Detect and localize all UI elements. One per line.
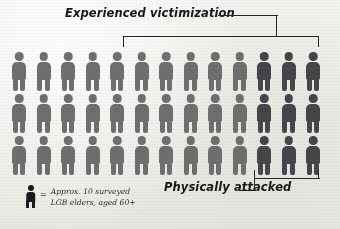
person-icon xyxy=(134,94,150,134)
person-icon xyxy=(85,136,101,176)
person-icon xyxy=(85,94,101,134)
person-icon xyxy=(183,52,199,92)
person-icon xyxy=(60,136,76,176)
person-icon xyxy=(207,52,223,92)
person-icon xyxy=(11,94,27,134)
person-icon xyxy=(158,94,174,134)
person-icon xyxy=(60,94,76,134)
person-icon-attacked xyxy=(305,52,321,92)
person-icon xyxy=(36,94,52,134)
person-icon-attacked xyxy=(305,94,321,134)
person-icon xyxy=(207,94,223,134)
top-bracket-span xyxy=(123,36,319,37)
person-icon xyxy=(109,52,125,92)
person-icon-attacked xyxy=(281,94,297,134)
legend-line-1: Approx. 10 surveyed xyxy=(51,187,136,198)
person-icon xyxy=(11,52,27,92)
person-icon xyxy=(134,136,150,176)
experienced-victimization-label: Experienced victimization xyxy=(65,6,235,20)
person-icon xyxy=(232,94,248,134)
person-icon xyxy=(158,52,174,92)
legend: = Approx. 10 surveyed LGB elders, aged 6… xyxy=(25,184,136,208)
person-icon xyxy=(36,52,52,92)
person-icon-attacked xyxy=(256,94,272,134)
top-bracket-leader xyxy=(218,15,278,16)
person-icon xyxy=(207,136,223,176)
person-icon xyxy=(134,52,150,92)
person-icon xyxy=(232,52,248,92)
person-icon xyxy=(36,136,52,176)
person-icon-attacked xyxy=(281,136,297,176)
legend-description: Approx. 10 surveyed LGB elders, aged 60+ xyxy=(51,187,136,208)
person-icon xyxy=(60,52,76,92)
pictogram-grid xyxy=(11,52,333,178)
pictogram-row xyxy=(11,136,333,178)
person-icon xyxy=(85,52,101,92)
physically-attacked-label: Physically attacked xyxy=(164,180,291,194)
pictogram-row xyxy=(11,52,333,94)
person-icon xyxy=(183,136,199,176)
person-icon xyxy=(183,94,199,134)
infographic-canvas: Experienced victimization xyxy=(0,0,340,229)
person-icon-attacked xyxy=(256,52,272,92)
person-icon xyxy=(109,136,125,176)
top-bracket-stem xyxy=(276,15,277,37)
legend-equals-sign: = xyxy=(40,190,47,199)
legend-person-icon xyxy=(25,185,36,207)
pictogram-row xyxy=(11,94,333,136)
person-icon-attacked xyxy=(281,52,297,92)
legend-line-2: LGB elders, aged 60+ xyxy=(51,198,136,209)
person-icon-attacked xyxy=(256,136,272,176)
person-icon xyxy=(232,136,248,176)
person-icon xyxy=(158,136,174,176)
person-icon xyxy=(11,136,27,176)
person-icon xyxy=(109,94,125,134)
top-bracket-tick-left xyxy=(123,36,124,47)
top-bracket-tick-right xyxy=(318,36,319,47)
